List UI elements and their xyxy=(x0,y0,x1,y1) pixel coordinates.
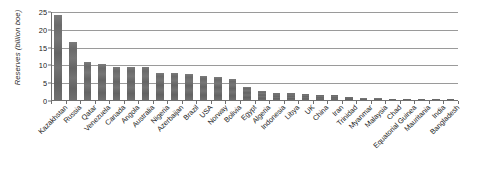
bar xyxy=(113,67,121,100)
bar xyxy=(142,67,150,100)
bar xyxy=(200,76,208,100)
plot-area: 0510152025 xyxy=(51,12,458,101)
bar xyxy=(171,73,179,100)
category-label: China xyxy=(311,103,331,123)
bar xyxy=(69,42,77,100)
y-tick-label: 15 xyxy=(39,43,47,52)
y-tick-label: 0 xyxy=(43,97,47,106)
bar xyxy=(243,87,251,100)
bars-layer xyxy=(51,12,458,101)
bar xyxy=(229,79,237,100)
bar xyxy=(214,77,222,100)
bar xyxy=(185,74,193,100)
y-tick-label: 20 xyxy=(39,25,47,34)
y-axis-title: Reserves (billion boe) xyxy=(13,0,22,98)
category-labels: KazakhstanRussiaQatarVenezuelaCanadaAngo… xyxy=(51,103,458,182)
y-axis-line xyxy=(51,12,52,101)
y-tick-label: 25 xyxy=(39,8,47,17)
bar xyxy=(127,67,135,100)
bar xyxy=(273,93,281,100)
bar xyxy=(54,15,62,100)
bar xyxy=(156,73,164,100)
x-axis-line xyxy=(51,100,458,101)
bar xyxy=(98,64,106,100)
x-tick-mark xyxy=(458,101,459,104)
bar xyxy=(258,91,266,100)
bar-chart: Reserves (billion boe) 0510152025 Kazakh… xyxy=(0,0,484,182)
y-tick-label: 5 xyxy=(43,79,47,88)
bar xyxy=(287,93,295,100)
bar xyxy=(84,62,92,100)
y-tick-label: 10 xyxy=(39,61,47,70)
category-label: Libya xyxy=(283,103,302,122)
